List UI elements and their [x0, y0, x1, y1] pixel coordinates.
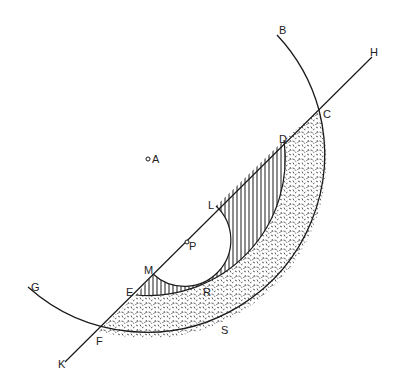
- label-R: R: [203, 286, 211, 298]
- label-G: G: [31, 281, 40, 293]
- label-F: F: [96, 335, 103, 347]
- label-M: M: [144, 264, 153, 276]
- label-H: H: [370, 46, 378, 58]
- label-P: P: [189, 240, 196, 252]
- label-A: A: [152, 153, 160, 165]
- label-C: C: [323, 108, 331, 120]
- label-D: D: [279, 133, 287, 145]
- geometry-diagram: A B H C D L P M E R G F S K: [0, 0, 399, 389]
- label-S: S: [221, 324, 228, 336]
- label-E: E: [126, 286, 133, 298]
- label-K: K: [58, 358, 66, 370]
- point-A-marker: [146, 157, 150, 161]
- label-L: L: [208, 199, 214, 211]
- label-B: B: [279, 24, 286, 36]
